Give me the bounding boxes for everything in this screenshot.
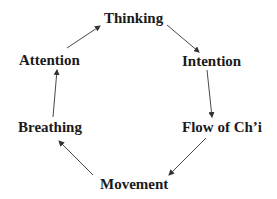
node-breathing: Breathing [18, 120, 82, 135]
arrow-thinking-to-intention [167, 25, 199, 52]
node-flow-of-chi: Flow of Ch’i [182, 120, 262, 135]
node-thinking: Thinking [104, 11, 163, 26]
node-movement: Movement [100, 177, 168, 192]
node-intention: Intention [182, 54, 241, 69]
node-attention: Attention [19, 53, 80, 68]
arrow-movement-to-breathing [59, 141, 93, 175]
arrow-intention-to-flow [207, 70, 212, 117]
cycle-diagram [0, 0, 277, 199]
arrow-flow-to-movement [169, 138, 206, 175]
arrow-breathing-to-attention [53, 70, 57, 117]
arrow-attention-to-thinking [67, 26, 100, 48]
